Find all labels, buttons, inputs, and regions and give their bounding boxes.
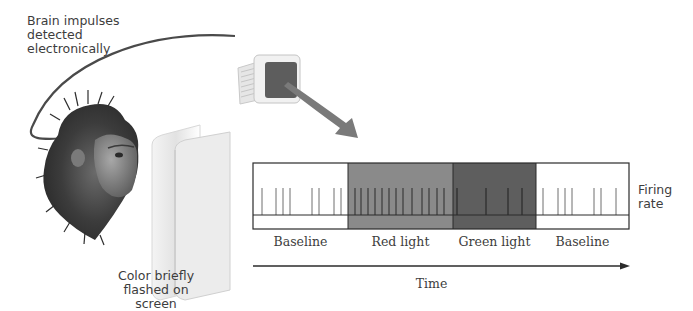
monitor-icon	[238, 55, 300, 104]
electrode-caption: Brain impulses detected electronically	[27, 14, 119, 56]
electrode-caption-line: Brain impulses	[27, 14, 119, 28]
electrode-caption-line: detected	[27, 28, 119, 42]
segment-label-baseline-1: Baseline	[253, 234, 348, 249]
monitor-to-chart-arrow	[284, 82, 358, 138]
segment-label-red-light: Red light	[348, 234, 453, 249]
monkey-head-icon	[36, 90, 138, 245]
electrode-caption-line: electronically	[27, 42, 119, 56]
firing-rate-line: rate	[638, 197, 672, 211]
raster-chart	[253, 163, 629, 229]
green-light-band	[453, 163, 536, 229]
firing-rate-label: Firing rate	[638, 183, 672, 211]
segment-label-baseline-2: Baseline	[536, 234, 629, 249]
firing-rate-line: Firing	[638, 183, 672, 197]
time-axis-arrow	[253, 263, 630, 270]
segment-label-green-light: Green light	[453, 234, 536, 249]
time-axis-label: Time	[0, 276, 693, 291]
